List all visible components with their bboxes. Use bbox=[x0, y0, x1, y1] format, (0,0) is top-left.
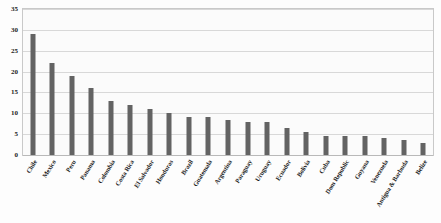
bar-slot bbox=[257, 9, 277, 155]
bar-slot bbox=[23, 9, 43, 155]
bar-slot bbox=[413, 9, 433, 155]
bar-slot bbox=[277, 9, 297, 155]
bar[interactable] bbox=[323, 136, 328, 155]
x-label-slot: Belize bbox=[413, 157, 433, 221]
bar[interactable] bbox=[401, 140, 406, 155]
x-label-slot: Chile bbox=[23, 157, 43, 221]
bar-slot bbox=[62, 9, 82, 155]
bar[interactable] bbox=[69, 76, 74, 155]
bar[interactable] bbox=[343, 136, 348, 155]
bar[interactable] bbox=[50, 63, 55, 155]
y-tick-label: 35 bbox=[11, 6, 18, 13]
bar[interactable] bbox=[186, 117, 191, 155]
bar-slot bbox=[160, 9, 180, 155]
bar-slot bbox=[296, 9, 316, 155]
x-label-slot: Paraguay bbox=[238, 157, 258, 221]
bar-slot bbox=[179, 9, 199, 155]
bar-slot bbox=[394, 9, 414, 155]
y-tick-label: 5 bbox=[15, 131, 19, 138]
x-label-slot: Guatemala bbox=[199, 157, 219, 221]
bar-slot bbox=[82, 9, 102, 155]
bar[interactable] bbox=[128, 105, 133, 155]
x-tick-label: Cuba bbox=[318, 159, 331, 175]
x-tick-label: Ecuador bbox=[274, 159, 292, 182]
x-tick-label: Panama bbox=[80, 159, 97, 181]
bar[interactable] bbox=[304, 132, 309, 155]
bar-slot bbox=[43, 9, 63, 155]
bar-slot bbox=[140, 9, 160, 155]
x-tick-label: Belize bbox=[415, 159, 429, 176]
bar[interactable] bbox=[147, 109, 152, 155]
x-tick-label: Guyana bbox=[353, 159, 370, 181]
x-label-slot: Argentina bbox=[218, 157, 238, 221]
y-tick-label: 25 bbox=[11, 47, 18, 54]
x-label-slot: Panama bbox=[82, 157, 102, 221]
bar[interactable] bbox=[265, 122, 270, 155]
bar[interactable] bbox=[30, 34, 35, 155]
x-label-slot: Antigua & Barbuda bbox=[394, 157, 414, 221]
bar[interactable] bbox=[108, 101, 113, 155]
bar-slot bbox=[238, 9, 258, 155]
x-label-slot: Dom Republic bbox=[335, 157, 355, 221]
y-tick-label: 20 bbox=[11, 68, 18, 75]
x-label-slot: Brazil bbox=[179, 157, 199, 221]
bar-slot bbox=[101, 9, 121, 155]
x-label-slot: Ecuador bbox=[277, 157, 297, 221]
x-axis: ChileMexicoPeruPanamaColombiaCosta RicaE… bbox=[23, 157, 433, 221]
bar[interactable] bbox=[225, 120, 230, 155]
bar[interactable] bbox=[362, 136, 367, 155]
bars-layer bbox=[23, 9, 433, 155]
bar[interactable] bbox=[245, 122, 250, 155]
y-tick-label: 15 bbox=[11, 89, 18, 96]
x-label-slot: Mexico bbox=[43, 157, 63, 221]
gridline-0 bbox=[23, 155, 433, 156]
x-tick-label: Bolivia bbox=[296, 159, 311, 178]
x-tick-label: Brazil bbox=[180, 159, 194, 176]
x-tick-label: Uruguay bbox=[254, 159, 272, 183]
x-label-slot: El Salvador bbox=[140, 157, 160, 221]
x-label-slot: Guyana bbox=[355, 157, 375, 221]
x-tick-label: Chile bbox=[25, 159, 38, 175]
bar[interactable] bbox=[167, 113, 172, 155]
x-tick-label: Peru bbox=[65, 159, 77, 173]
bar-slot bbox=[121, 9, 141, 155]
bar-slot bbox=[199, 9, 219, 155]
x-label-slot: Uruguay bbox=[257, 157, 277, 221]
y-tick-label: 0 bbox=[15, 152, 19, 159]
bar[interactable] bbox=[206, 117, 211, 155]
bar-slot bbox=[355, 9, 375, 155]
x-label-slot: Bolivia bbox=[296, 157, 316, 221]
x-tick-label: Mexico bbox=[42, 159, 58, 179]
bar-slot bbox=[374, 9, 394, 155]
y-tick-label: 10 bbox=[11, 110, 18, 117]
bar[interactable] bbox=[284, 128, 289, 155]
bar[interactable] bbox=[382, 138, 387, 155]
bar[interactable] bbox=[89, 88, 94, 155]
bar-chart: 05101520253035 ChileMexicoPeruPanamaColo… bbox=[0, 0, 441, 223]
y-tick-label: 30 bbox=[11, 26, 18, 33]
bar-slot bbox=[218, 9, 238, 155]
x-label-slot: Colombia bbox=[101, 157, 121, 221]
bar[interactable] bbox=[421, 143, 426, 156]
bar-slot bbox=[335, 9, 355, 155]
y-axis: 05101520253035 bbox=[0, 0, 22, 164]
bar-slot bbox=[316, 9, 336, 155]
x-label-slot: Peru bbox=[62, 157, 82, 221]
x-label-slot: Costa Rica bbox=[121, 157, 141, 221]
x-label-slot: Honduras bbox=[160, 157, 180, 221]
